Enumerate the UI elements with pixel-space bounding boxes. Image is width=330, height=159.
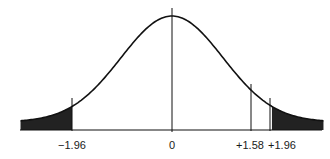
tick-label-zero: 0 <box>169 139 175 151</box>
tick-label-neg-1-96: −1.96 <box>58 139 86 151</box>
tick-label-pos-1-58: +1.58 <box>236 139 264 151</box>
normal-distribution-chart: −1.96 0 +1.58 +1.96 <box>0 0 330 159</box>
tick-label-pos-1-96: +1.96 <box>268 139 296 151</box>
